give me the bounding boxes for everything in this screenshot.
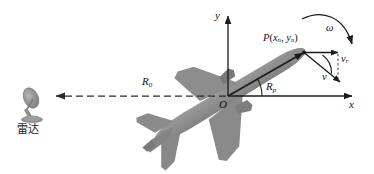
R0-symbol: R	[142, 75, 149, 87]
Rp-symbol: R	[266, 80, 273, 92]
point-P-label: P(xn, yn)	[263, 33, 298, 44]
label-R0: R0	[142, 76, 152, 89]
R0-subscript: 0	[149, 81, 153, 89]
Rp-subscript: p	[273, 86, 277, 94]
radar-dish-icon	[20, 85, 42, 110]
figure-canvas: y x O P(xn, yn) R0 Rp ω vr v 雷达	[0, 0, 374, 174]
point-paren-close: )	[294, 32, 298, 43]
radar-label: 雷达	[17, 124, 39, 135]
label-Rp: Rp	[266, 81, 276, 94]
diagram-vector-layer	[0, 0, 374, 174]
axis-origin-label: O	[219, 99, 227, 110]
radar-station	[20, 85, 43, 123]
axis-label-x: x	[349, 99, 354, 110]
aircraft-silhouette	[118, 10, 333, 174]
label-v: v	[322, 72, 327, 83]
vr-subscript: r	[346, 57, 349, 64]
label-vr: vr	[341, 54, 348, 65]
axis-label-y: y	[215, 10, 220, 21]
label-omega: ω	[326, 23, 333, 34]
